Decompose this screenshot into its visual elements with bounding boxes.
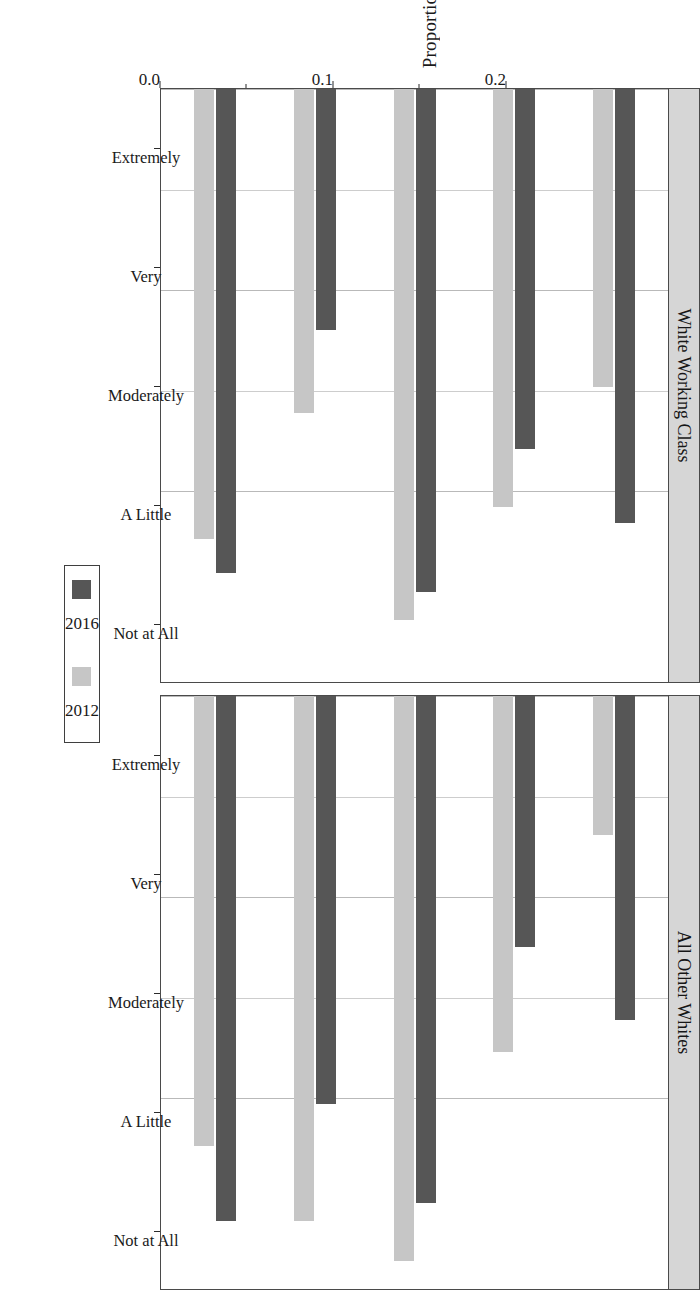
bar-row <box>316 89 336 682</box>
bar-row <box>316 696 336 1289</box>
bar-row <box>515 696 535 1289</box>
bar-row <box>615 696 635 1289</box>
bar-group <box>564 696 664 1289</box>
bar-row <box>216 696 236 1289</box>
x-axis-panel-left: ExtremelyVeryModeratelyA LittleNot at Al… <box>126 88 160 683</box>
x-category-label: Not at All <box>113 624 178 644</box>
bar-groups <box>161 89 668 682</box>
legend-item-2012: 2012 <box>72 667 92 728</box>
x-category-label: Extremely <box>112 148 181 168</box>
figure: Proportion 0.00.10.2 White Working Class… <box>0 0 700 1308</box>
panel-all-other-whites: All Other Whites <box>160 695 700 1290</box>
y-axis-ticks: 0.00.10.2 <box>160 40 700 88</box>
bar-row <box>416 696 436 1289</box>
bar-2012-extremely <box>593 89 613 387</box>
bar-2012-a-little <box>294 89 314 413</box>
plot-area-right <box>161 696 668 1289</box>
bar-group <box>564 89 664 682</box>
legend: 2012 2016 <box>64 565 100 743</box>
bar-group <box>464 696 564 1289</box>
bar-2016-extremely <box>615 89 635 523</box>
bar-row <box>394 89 414 682</box>
bar-2012-very <box>493 89 513 507</box>
bar-2016-a-little <box>316 696 336 1104</box>
x-category-label: Very <box>130 874 161 894</box>
bar-2012-a-little <box>294 696 314 1221</box>
x-category-label: A Little <box>121 505 172 525</box>
bar-2016-not-at-all <box>216 696 236 1221</box>
bar-row <box>593 696 613 1289</box>
legend-swatch-2016-icon <box>73 580 92 599</box>
bar-group <box>464 89 564 682</box>
bar-2016-moderately <box>416 696 436 1203</box>
legend-label-2016: 2016 <box>65 614 99 634</box>
x-axis: ExtremelyVeryModeratelyA LittleNot at Al… <box>126 88 160 1290</box>
bar-row <box>416 89 436 682</box>
bar-2016-very <box>515 89 535 449</box>
bar-row <box>615 89 635 682</box>
bar-2012-very <box>493 696 513 1052</box>
y-tick-label: 0.0 <box>139 70 160 90</box>
bar-2012-extremely <box>593 696 613 835</box>
bar-row <box>593 89 613 682</box>
bar-row <box>515 89 535 682</box>
bar-2012-not-at-all <box>194 89 214 539</box>
panel-container: White Working Class All Other Whites <box>160 88 700 1290</box>
panel-white-working-class: White Working Class <box>160 88 700 683</box>
bar-row <box>216 89 236 682</box>
bar-2016-extremely <box>615 696 635 1020</box>
bar-2016-moderately <box>416 89 436 592</box>
bar-group <box>265 696 365 1289</box>
x-category-label: Very <box>130 267 161 287</box>
bar-2012-moderately <box>394 89 414 620</box>
bar-group <box>365 696 465 1289</box>
legend-label-2012: 2012 <box>65 701 99 721</box>
x-category-label: Extremely <box>112 755 181 775</box>
bar-row <box>493 89 513 682</box>
bar-groups <box>161 696 668 1289</box>
bar-2012-moderately <box>394 696 414 1261</box>
bar-group <box>265 89 365 682</box>
bar-row <box>294 696 314 1289</box>
panel-strip-label-right: All Other Whites <box>668 696 699 1289</box>
bar-row <box>194 696 214 1289</box>
x-category-label: Moderately <box>108 993 184 1013</box>
y-axis-title: Proportion <box>160 14 700 40</box>
bar-2016-very <box>515 696 535 947</box>
plot-area-left <box>161 89 668 682</box>
x-category-label: Not at All <box>113 1231 178 1251</box>
x-category-label: Moderately <box>108 386 184 406</box>
rotated-figure-wrapper: Proportion 0.00.10.2 White Working Class… <box>0 0 700 1308</box>
panel-strip-label-left: White Working Class <box>668 89 699 682</box>
bar-row <box>493 696 513 1289</box>
x-category-label: A Little <box>121 1112 172 1132</box>
bar-2016-not-at-all <box>216 89 236 573</box>
bar-row <box>394 696 414 1289</box>
bar-group <box>365 89 465 682</box>
x-axis-panel-right: ExtremelyVeryModeratelyA LittleNot at Al… <box>126 695 160 1290</box>
legend-item-2016: 2016 <box>72 580 92 641</box>
bar-row <box>194 89 214 682</box>
bar-2012-not-at-all <box>194 696 214 1146</box>
y-tick-label: 0.2 <box>485 70 506 90</box>
legend-swatch-2012-icon <box>73 667 92 686</box>
bar-row <box>294 89 314 682</box>
bar-2016-a-little <box>316 89 336 330</box>
y-tick-label: 0.1 <box>312 70 333 90</box>
